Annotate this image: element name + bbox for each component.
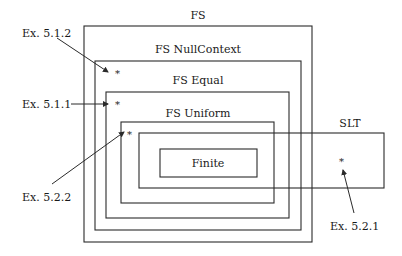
finite-label: Finite bbox=[192, 157, 225, 170]
ex511-marker: * bbox=[115, 99, 120, 110]
ex522-arrow bbox=[52, 132, 124, 184]
fs-label: FS bbox=[190, 9, 205, 22]
slt-label: SLT bbox=[339, 117, 361, 130]
ex522-marker: * bbox=[127, 129, 132, 140]
fs-box bbox=[84, 26, 312, 242]
set-inclusion-diagram: FS FS NullContext FS Equal FS Uniform SL… bbox=[0, 0, 402, 256]
ex521-marker: * bbox=[339, 156, 344, 167]
ex512-arrow bbox=[57, 38, 108, 72]
slt-box bbox=[139, 133, 384, 188]
ex511-label: Ex. 5.1.1 bbox=[22, 98, 71, 111]
nullcontext-label: FS NullContext bbox=[155, 43, 242, 56]
uniform-label: FS Uniform bbox=[166, 107, 231, 120]
equal-label: FS Equal bbox=[173, 74, 224, 87]
ex521-arrow bbox=[343, 170, 354, 213]
ex521-label: Ex. 5.2.1 bbox=[330, 220, 379, 233]
ex522-label: Ex. 5.2.2 bbox=[22, 191, 71, 204]
ex512-label: Ex. 5.1.2 bbox=[22, 27, 71, 40]
ex512-marker: * bbox=[115, 68, 120, 79]
